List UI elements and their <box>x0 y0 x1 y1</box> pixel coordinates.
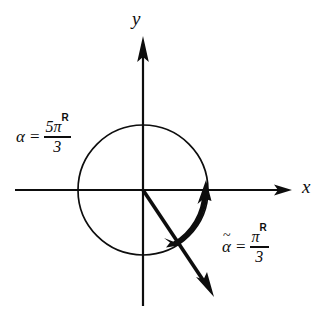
unit-circle-diagram <box>0 0 325 318</box>
alpha-tilde-numerator: πR <box>250 228 269 246</box>
alpha-label: α = 5πR 3 <box>16 118 71 155</box>
alpha-symbol: α <box>16 128 25 145</box>
tilde-accent: ~ <box>223 229 231 243</box>
x-axis-label: x <box>302 176 310 198</box>
alpha-numerator: 5πR <box>44 118 71 136</box>
y-axis-label: y <box>132 8 140 30</box>
alpha-numerator-text: 5π <box>46 118 62 135</box>
alpha-tilde-label: ~ α = πR 3 <box>222 228 269 265</box>
alpha-equals-sign: = <box>30 128 40 145</box>
alpha-tilde-equals-sign: = <box>236 238 246 255</box>
alpha-tilde-numerator-text: π <box>252 228 260 245</box>
alpha-radian-superscript: R <box>62 112 69 123</box>
alpha-tilde-symbol: ~ α <box>222 238 231 255</box>
alpha-tilde-radian-superscript: R <box>260 222 267 233</box>
alpha-denominator: 3 <box>51 138 63 155</box>
alpha-tilde-denominator: 3 <box>253 248 265 265</box>
terminal-side-ray <box>143 190 205 283</box>
alpha-fraction: 5πR 3 <box>44 118 71 155</box>
alpha-tilde-fraction: πR 3 <box>250 228 269 265</box>
